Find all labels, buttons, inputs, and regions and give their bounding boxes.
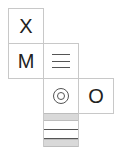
band-white-upper xyxy=(44,121,78,129)
tile-o[interactable]: O xyxy=(78,78,114,114)
tile-target[interactable] xyxy=(43,78,79,114)
tile-m[interactable]: M xyxy=(8,43,44,79)
tile-m-label: M xyxy=(18,51,35,71)
hamburger-menu-icon xyxy=(52,54,70,68)
tile-x[interactable]: X xyxy=(8,8,44,44)
tile-menu[interactable] xyxy=(43,43,79,79)
bullseye-icon xyxy=(53,88,69,104)
band-gray-bottom xyxy=(44,139,78,147)
band-white-lower xyxy=(44,130,78,138)
tile-o-label: O xyxy=(88,86,104,106)
tile-striped-bands[interactable] xyxy=(43,113,79,147)
band-gray-top xyxy=(44,113,78,121)
tile-x-label: X xyxy=(19,16,32,36)
